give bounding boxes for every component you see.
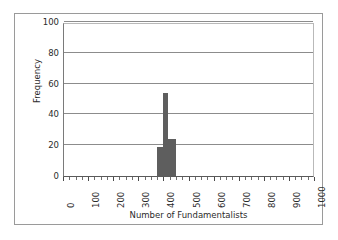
x-axis-major-tick [214, 177, 215, 181]
x-axis-minor-tick [119, 177, 120, 180]
x-axis-major-tick [239, 177, 240, 181]
x-axis-major-tick [189, 177, 190, 181]
x-axis-tick-label: 0 [67, 203, 76, 208]
x-axis-minor-tick [258, 177, 259, 180]
x-axis-tick-label: 900 [293, 192, 302, 208]
x-axis-minor-tick [145, 177, 146, 180]
y-axis-tick-label: 80 [25, 49, 59, 58]
y-axis-tick-label: 0 [25, 172, 59, 181]
x-axis-minor-tick [220, 177, 221, 180]
x-axis-minor-tick [107, 177, 108, 180]
x-axis-tick-labels: 01002003004005006007008009001000 [63, 182, 314, 212]
x-axis-minor-tick [283, 177, 284, 180]
x-axis-minor-tick [195, 177, 196, 180]
x-axis-minor-tick [276, 177, 277, 180]
x-axis-minor-tick [69, 177, 70, 180]
x-axis-minor-tick [176, 177, 177, 180]
x-axis-minor-tick [76, 177, 77, 180]
x-axis-minor-tick [151, 177, 152, 180]
x-axis-minor-tick [201, 177, 202, 180]
x-axis-major-tick [289, 177, 290, 181]
x-axis-minor-tick [182, 177, 183, 180]
x-axis-major-tick [314, 177, 315, 181]
histogram-bar [168, 139, 176, 176]
x-axis-minor-tick [207, 177, 208, 180]
x-axis-minor-tick [270, 177, 271, 180]
x-axis-tick-label: 500 [193, 192, 202, 208]
y-axis-tick-label: 60 [25, 80, 59, 89]
y-axis-tick-labels: 020406080100 [23, 23, 59, 177]
x-axis-minor-tick [232, 177, 233, 180]
x-axis-major-tick [63, 177, 64, 181]
x-axis-tick-label: 600 [218, 192, 227, 208]
x-axis-title: Number of Fundamentalists [63, 210, 314, 220]
x-axis-minor-tick [94, 177, 95, 180]
gridline [64, 21, 313, 22]
x-axis-minor-tick [157, 177, 158, 180]
x-axis-minor-tick [295, 177, 296, 180]
x-axis-minor-tick [245, 177, 246, 180]
x-axis-minor-tick [226, 177, 227, 180]
x-axis-tick-label: 700 [243, 192, 252, 208]
plot-area [63, 23, 314, 177]
bars-layer [64, 24, 313, 176]
x-axis-tick-label: 200 [117, 192, 126, 208]
x-axis-minor-tick [101, 177, 102, 180]
x-axis-minor-tick [170, 177, 171, 180]
x-axis-tick-label: 300 [142, 192, 151, 208]
x-axis-tick-label: 100 [92, 192, 101, 208]
x-axis-minor-tick [251, 177, 252, 180]
y-axis-tick-label: 40 [25, 110, 59, 119]
y-axis-tick-label: 100 [25, 18, 59, 27]
x-axis-minor-tick [132, 177, 133, 180]
x-axis-tick-label: 1000 [318, 186, 327, 208]
chart-frame: Frequency 020406080100 01002003004005006… [14, 13, 323, 225]
y-axis-tick-label: 20 [25, 141, 59, 150]
x-axis-tick-label: 400 [167, 192, 176, 208]
x-axis-minor-tick [82, 177, 83, 180]
x-axis-minor-tick [126, 177, 127, 180]
x-axis-major-tick [88, 177, 89, 181]
x-axis-major-tick [138, 177, 139, 181]
x-axis-major-tick [163, 177, 164, 181]
x-axis-major-tick [264, 177, 265, 181]
x-axis-minor-tick [301, 177, 302, 180]
x-axis-minor-tick [308, 177, 309, 180]
x-axis-major-tick [113, 177, 114, 181]
x-axis-tick-label: 800 [268, 192, 277, 208]
